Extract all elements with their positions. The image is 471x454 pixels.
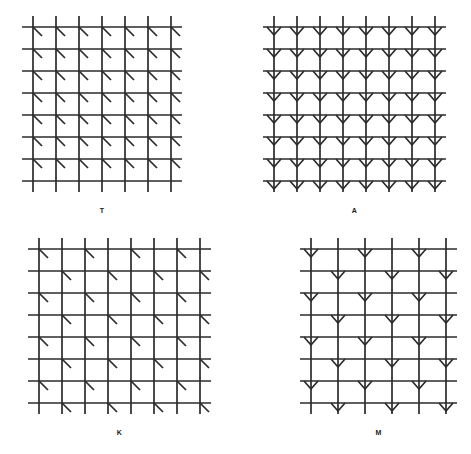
diagonal-stroke: [102, 115, 111, 124]
diagonal-stroke: [108, 315, 117, 324]
diagonal-stroke: [125, 137, 134, 146]
diagonal-stroke: [200, 315, 209, 324]
diagonal-stroke: [171, 115, 180, 124]
diagonal-stroke: [79, 159, 88, 168]
diagonal-stroke: [131, 293, 140, 302]
diagonal-stroke: [56, 71, 65, 80]
diagonal-stroke: [125, 93, 134, 102]
panel-a-canvas: [263, 16, 446, 192]
diagonal-stroke: [131, 337, 140, 346]
texture-elements: [267, 27, 442, 189]
diagonal-stroke: [33, 71, 42, 80]
diagonal-stroke: [154, 359, 163, 368]
diagonal-stroke: [148, 115, 157, 124]
diagonal-stroke: [102, 93, 111, 102]
diagonal-stroke: [85, 337, 94, 346]
diagonal-stroke: [125, 115, 134, 124]
diagonal-stroke: [177, 337, 186, 346]
diagonal-stroke: [56, 93, 65, 102]
diagonal-stroke: [56, 27, 65, 36]
diagonal-stroke: [56, 49, 65, 58]
diagonal-stroke: [39, 293, 48, 302]
panel-k-canvas: [28, 238, 211, 414]
diagonal-stroke: [148, 27, 157, 36]
diagonal-stroke: [56, 115, 65, 124]
diagonal-stroke: [177, 381, 186, 390]
diagonal-stroke: [102, 71, 111, 80]
diagonal-stroke: [131, 381, 140, 390]
diagonal-stroke: [62, 403, 71, 412]
diagonal-stroke: [200, 359, 209, 368]
diagonal-stroke: [154, 403, 163, 412]
diagonal-stroke: [154, 315, 163, 324]
diagonal-stroke: [39, 249, 48, 258]
diagonal-stroke: [62, 359, 71, 368]
grid-lines: [263, 16, 446, 192]
panel-m: M: [300, 238, 457, 414]
diagonal-stroke: [171, 93, 180, 102]
diagonal-stroke: [171, 159, 180, 168]
grid-lines: [300, 238, 457, 414]
panel-t-canvas: [22, 16, 182, 192]
diagonal-stroke: [39, 337, 48, 346]
diagonal-stroke: [108, 271, 117, 280]
diagonal-stroke: [79, 71, 88, 80]
panel-m-canvas: [300, 238, 457, 414]
diagonal-stroke: [171, 71, 180, 80]
diagonal-stroke: [108, 403, 117, 412]
diagonal-stroke: [177, 293, 186, 302]
diagonal-stroke: [148, 137, 157, 146]
diagonal-stroke: [39, 381, 48, 390]
panel-t-label: T: [22, 206, 182, 215]
diagonal-stroke: [79, 137, 88, 146]
texture-elements: [39, 249, 209, 412]
diagonal-stroke: [85, 381, 94, 390]
diagonal-stroke: [62, 271, 71, 280]
diagonal-stroke: [148, 49, 157, 58]
diagonal-stroke: [79, 115, 88, 124]
diagonal-stroke: [33, 115, 42, 124]
panel-k: K: [28, 238, 211, 414]
diagonal-stroke: [56, 159, 65, 168]
diagonal-stroke: [200, 403, 209, 412]
panel-a-label: A: [263, 206, 446, 215]
diagonal-stroke: [79, 93, 88, 102]
diagonal-stroke: [33, 27, 42, 36]
diagonal-stroke: [125, 27, 134, 36]
diagonal-stroke: [102, 137, 111, 146]
diagonal-stroke: [79, 49, 88, 58]
diagonal-stroke: [148, 93, 157, 102]
diagonal-stroke: [108, 359, 117, 368]
diagonal-stroke: [125, 159, 134, 168]
panel-m-label: M: [300, 428, 457, 437]
texture-elements: [304, 249, 453, 411]
diagonal-stroke: [148, 159, 157, 168]
diagonal-stroke: [102, 27, 111, 36]
diagonal-stroke: [62, 315, 71, 324]
diagonal-stroke: [33, 137, 42, 146]
diagonal-stroke: [171, 27, 180, 36]
diagonal-stroke: [102, 49, 111, 58]
panel-k-label: K: [28, 428, 211, 437]
diagonal-stroke: [131, 249, 140, 258]
diagonal-stroke: [56, 137, 65, 146]
diagonal-stroke: [177, 249, 186, 258]
diagonal-stroke: [102, 159, 111, 168]
diagonal-stroke: [171, 49, 180, 58]
diagonal-stroke: [148, 71, 157, 80]
diagonal-stroke: [85, 293, 94, 302]
diagonal-stroke: [85, 249, 94, 258]
diagonal-stroke: [125, 49, 134, 58]
diagonal-stroke: [125, 71, 134, 80]
diagonal-stroke: [79, 27, 88, 36]
grid-lines: [22, 16, 182, 192]
diagonal-stroke: [33, 93, 42, 102]
diagonal-stroke: [33, 49, 42, 58]
panel-a: A: [263, 16, 446, 192]
diagonal-stroke: [33, 159, 42, 168]
diagonal-stroke: [154, 271, 163, 280]
diagonal-stroke: [171, 137, 180, 146]
figure-root: TAKM: [0, 0, 471, 454]
diagonal-stroke: [200, 271, 209, 280]
panel-t: T: [22, 16, 182, 192]
